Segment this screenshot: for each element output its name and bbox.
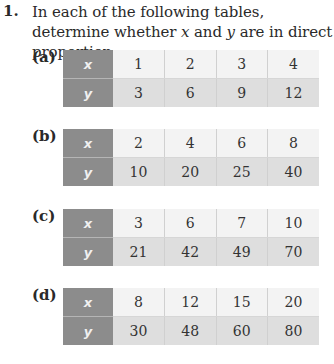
table-cell: 1 [113, 50, 165, 79]
table-cell: 9 [216, 79, 268, 108]
row-header-x: x [63, 209, 113, 238]
proportion-table-c: x 3 6 7 10 y 21 42 49 70 [63, 209, 319, 266]
table-cell: 42 [165, 238, 217, 267]
table-cell: 10 [113, 158, 165, 187]
table-cell: 60 [216, 317, 268, 346]
table-cell: 8 [268, 129, 320, 158]
table-row-x: x 3 6 7 10 [63, 209, 319, 238]
table-cell: 80 [268, 317, 320, 346]
proportion-table-a: x 1 2 3 4 y 3 6 9 12 [63, 50, 319, 107]
table-cell: 20 [268, 288, 320, 317]
part-label-d: (d) [32, 286, 57, 304]
question-number: 1. [3, 2, 19, 20]
table-row-x: x 8 12 15 20 [63, 288, 319, 317]
table-cell: 40 [268, 158, 320, 187]
table-cell: 3 [216, 50, 268, 79]
table-row-y: y 3 6 9 12 [63, 79, 319, 108]
proportion-table-b: x 2 4 6 8 y 10 20 25 40 [63, 129, 319, 186]
question-text-part: and [189, 23, 226, 41]
row-header-x: x [63, 129, 113, 158]
row-header-x: x [63, 50, 113, 79]
table-cell: 30 [113, 317, 165, 346]
table-cell: 7 [216, 209, 268, 238]
part-label-b: (b) [32, 127, 57, 145]
table-cell: 4 [268, 50, 320, 79]
table-cell: 70 [268, 238, 320, 267]
table-cell: 49 [216, 238, 268, 267]
table-cell: 6 [165, 79, 217, 108]
row-header-x: x [63, 288, 113, 317]
table-cell: 3 [113, 79, 165, 108]
table-row-y: y 30 48 60 80 [63, 317, 319, 346]
table-cell: 3 [113, 209, 165, 238]
part-label-a: (a) [32, 48, 56, 66]
table-cell: 10 [268, 209, 320, 238]
table-cell: 15 [216, 288, 268, 317]
table-cell: 4 [165, 129, 217, 158]
table-cell: 48 [165, 317, 217, 346]
table-cell: 8 [113, 288, 165, 317]
table-cell: 2 [165, 50, 217, 79]
table-cell: 12 [268, 79, 320, 108]
row-header-y: y [63, 317, 113, 346]
table-cell: 20 [165, 158, 217, 187]
table-cell: 25 [216, 158, 268, 187]
table-row-x: x 2 4 6 8 [63, 129, 319, 158]
table-cell: 21 [113, 238, 165, 267]
part-label-c: (c) [32, 207, 55, 225]
row-header-y: y [63, 238, 113, 267]
row-header-y: y [63, 79, 113, 108]
variable-y: y [227, 23, 235, 41]
row-header-y: y [63, 158, 113, 187]
table-row-y: y 10 20 25 40 [63, 158, 319, 187]
table-cell: 12 [165, 288, 217, 317]
table-row-x: x 1 2 3 4 [63, 50, 319, 79]
table-cell: 2 [113, 129, 165, 158]
table-row-y: y 21 42 49 70 [63, 238, 319, 267]
table-cell: 6 [216, 129, 268, 158]
table-cell: 6 [165, 209, 217, 238]
proportion-table-d: x 8 12 15 20 y 30 48 60 80 [63, 288, 319, 345]
